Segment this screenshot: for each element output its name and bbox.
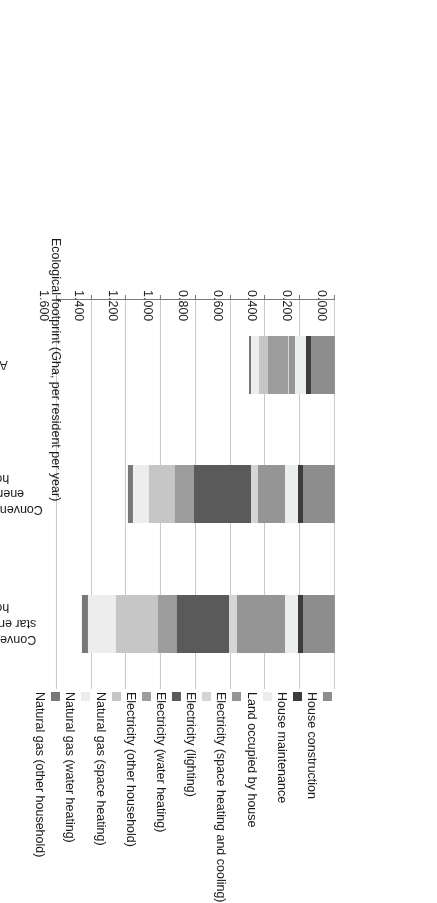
category-label-line: houses xyxy=(0,470,49,486)
legend-swatch xyxy=(51,692,60,701)
bar-segment xyxy=(258,466,285,524)
bar-segment xyxy=(133,466,150,524)
category-label-line: houses xyxy=(0,600,49,616)
bar-segment xyxy=(306,336,311,394)
bar-segment xyxy=(289,336,295,394)
bar-segment xyxy=(259,336,269,394)
legend-swatch xyxy=(172,692,181,701)
bar-segment xyxy=(285,595,298,653)
x-axis-tick-label: 0.600 xyxy=(211,290,225,321)
legend-label: Natural gas (space heating) xyxy=(94,692,108,846)
bar-segment xyxy=(128,466,132,524)
bar-segment xyxy=(268,336,287,394)
category-label-line: energy rated xyxy=(0,486,49,502)
x-axis-title: Ecological footprint (Gha, per resident … xyxy=(49,238,63,501)
category-label-line: Aurora xyxy=(0,357,49,373)
x-axis-tick-label: 0.400 xyxy=(246,290,260,321)
bar-segment xyxy=(303,595,335,653)
bar-segment xyxy=(251,336,259,394)
legend-label: Electricity (space heating and cooling) xyxy=(214,692,228,903)
bar-segment xyxy=(295,336,305,394)
x-axis-tick-label: 1.000 xyxy=(141,290,155,321)
legend-swatch xyxy=(112,692,121,701)
bar-segment xyxy=(82,595,88,653)
bar-segment xyxy=(237,595,285,653)
x-axis-tick xyxy=(160,295,161,300)
bar-segment xyxy=(229,595,237,653)
plot-area xyxy=(57,300,335,689)
legend-label: Electricity (other household) xyxy=(124,692,138,847)
x-axis-tick-label: 0.000 xyxy=(315,290,329,321)
bar-segment xyxy=(177,595,229,653)
legend-label: House maintenance xyxy=(275,692,289,803)
x-axis-tick-label: 0.200 xyxy=(280,290,294,321)
legend-swatch xyxy=(263,692,272,701)
bar-segment xyxy=(158,595,177,653)
bar-segment xyxy=(285,466,298,524)
x-axis-tick xyxy=(334,295,335,300)
legend-label: Electricity (water heating) xyxy=(154,692,168,832)
bar-segment xyxy=(288,336,290,394)
legend-swatch xyxy=(142,692,151,701)
bar-segment xyxy=(249,336,251,394)
legend-label: Electricity (lighting) xyxy=(184,692,198,797)
legend-swatch xyxy=(323,692,332,701)
category-label-line: Conventional 5 star xyxy=(0,501,49,517)
bar-1 xyxy=(82,595,335,653)
bar-3 xyxy=(249,336,335,394)
legend-label: House construction xyxy=(305,692,319,799)
legend-label: Natural gas (other household) xyxy=(33,692,47,857)
bar-segment xyxy=(175,466,194,524)
legend-swatch xyxy=(81,692,90,701)
bar-segment xyxy=(311,336,335,394)
legend-swatch xyxy=(293,692,302,701)
x-axis-tick xyxy=(126,295,127,300)
bar-segment xyxy=(251,466,258,524)
x-axis-tick xyxy=(265,295,266,300)
legend-label: Land occupied by house xyxy=(245,692,259,828)
bar-segment xyxy=(194,466,250,524)
bar-2 xyxy=(128,466,335,524)
category-label-1: Conventional 2-3star energy ratedhouses xyxy=(0,600,49,647)
category-label-line: star energy rated xyxy=(0,615,49,631)
x-axis-tick xyxy=(299,295,300,300)
bar-segment xyxy=(88,595,116,653)
bar-segment xyxy=(303,466,335,524)
legend-label: Natural gas (water heating) xyxy=(63,692,77,843)
legend-swatch xyxy=(202,692,211,701)
x-axis-tick xyxy=(230,295,231,300)
legend-swatch xyxy=(232,692,241,701)
bar-segment xyxy=(298,466,303,524)
bar-segment xyxy=(149,466,175,524)
x-axis-tick-label: 1.400 xyxy=(72,290,86,321)
category-label-2: Conventional 5 starenergy ratedhouses xyxy=(0,470,49,517)
x-axis-tick-label: 0.800 xyxy=(176,290,190,321)
category-label-3: Aurora xyxy=(0,357,49,373)
x-axis-tick-label: 1.200 xyxy=(107,290,121,321)
bar-segment xyxy=(298,595,303,653)
category-label-line: Conventional 2-3 xyxy=(0,631,49,647)
x-axis-tick xyxy=(91,295,92,300)
bar-segment xyxy=(116,595,158,653)
x-axis-tick xyxy=(195,295,196,300)
